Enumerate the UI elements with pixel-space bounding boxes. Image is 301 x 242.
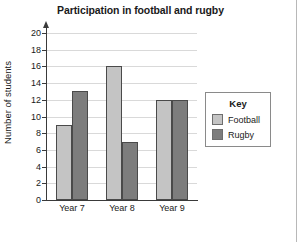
plot-area <box>47 33 197 200</box>
y-axis-tick <box>42 167 47 168</box>
gridline <box>47 50 197 51</box>
y-axis-tick <box>42 66 47 67</box>
y-axis-tick <box>42 117 47 118</box>
y-axis-tick-label: 8 <box>3 129 41 138</box>
page-edge-rule <box>296 0 297 242</box>
legend-label-rugby: Rugby <box>228 130 254 140</box>
gridline <box>47 66 197 67</box>
y-axis-tick <box>42 100 47 101</box>
gridline <box>47 83 197 84</box>
bar-football-year-9 <box>156 100 172 200</box>
y-axis-tick-label: 18 <box>3 46 41 55</box>
bar-rugby-year-8 <box>122 142 138 200</box>
y-axis-tick-label: 16 <box>3 62 41 71</box>
x-axis-line <box>46 200 198 201</box>
legend-item-rugby: Rugby <box>212 129 264 140</box>
legend-item-football: Football <box>212 114 264 125</box>
bar-rugby-year-9 <box>172 100 188 200</box>
bar-football-year-7 <box>56 125 72 200</box>
bar-rugby-year-7 <box>72 91 88 200</box>
legend-label-football: Football <box>228 115 260 125</box>
y-axis-tick-label: 0 <box>3 196 41 205</box>
gridline <box>47 33 197 34</box>
y-axis-tick <box>42 83 47 84</box>
y-axis-tick <box>42 150 47 151</box>
legend-swatch-rugby <box>212 129 223 140</box>
y-axis-tick-label: 6 <box>3 146 41 155</box>
x-axis-label-year-8: Year 8 <box>97 203 147 213</box>
bar-football-year-8 <box>106 66 122 200</box>
x-axis-label-year-7: Year 7 <box>47 203 97 213</box>
y-axis-tick <box>42 33 47 34</box>
chart-title: Participation in football and rugby <box>28 4 253 16</box>
legend-key-box: Key Football Rugby <box>205 92 271 147</box>
x-axis-label-year-9: Year 9 <box>147 203 197 213</box>
y-axis-tick-label: 10 <box>3 113 41 122</box>
y-axis-tick-label: 14 <box>3 79 41 88</box>
legend-swatch-football <box>212 114 223 125</box>
legend-title: Key <box>212 98 264 109</box>
y-axis-tick <box>42 183 47 184</box>
y-axis-tick-label: 2 <box>3 179 41 188</box>
y-axis-tick <box>42 50 47 51</box>
y-axis-tick <box>42 133 47 134</box>
bar-chart: Participation in football and rugby Numb… <box>0 0 301 242</box>
y-axis-tick-label: 12 <box>3 96 41 105</box>
y-axis-tick-label: 20 <box>3 29 41 38</box>
x-axis-category-labels: Year 7Year 8Year 9 <box>47 203 197 219</box>
y-axis-labels: Number of students 02468101214161820 <box>0 0 41 205</box>
y-axis-tick-label: 4 <box>3 163 41 172</box>
y-axis-tick <box>42 200 47 201</box>
y-axis-arrow-icon <box>43 21 49 28</box>
